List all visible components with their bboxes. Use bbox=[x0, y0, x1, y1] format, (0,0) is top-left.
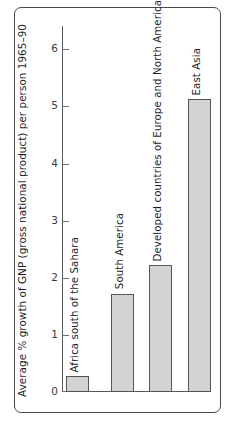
y-tick-label-3: 3 bbox=[44, 215, 58, 226]
bar-3 bbox=[188, 99, 211, 392]
bar-label-2: Developed countries of Europe and North … bbox=[153, 0, 163, 261]
y-tick-label-4: 4 bbox=[44, 158, 58, 169]
y-tick-mark-3 bbox=[62, 221, 69, 222]
bar-label-0: Africa south of the Sahara bbox=[70, 237, 80, 372]
bar-1 bbox=[111, 294, 134, 392]
y-tick-label-0: 0 bbox=[44, 386, 58, 397]
y-axis-title: Average % growth of GNP (gross national … bbox=[17, 24, 27, 397]
y-tick-mark-6 bbox=[62, 49, 69, 50]
y-tick-mark-2 bbox=[62, 278, 69, 279]
y-tick-mark-4 bbox=[62, 164, 69, 165]
bar-label-3: East Asia bbox=[192, 48, 202, 95]
y-tick-mark-5 bbox=[62, 106, 69, 107]
y-tick-label-5: 5 bbox=[44, 100, 58, 111]
y-axis-line bbox=[62, 26, 63, 392]
y-tick-label-1: 1 bbox=[44, 329, 58, 340]
bar-2 bbox=[149, 265, 172, 392]
y-tick-mark-1 bbox=[62, 335, 69, 336]
bar-0 bbox=[66, 376, 89, 392]
y-tick-label-6: 6 bbox=[44, 43, 58, 54]
y-tick-label-2: 2 bbox=[44, 272, 58, 283]
chart-figure: 6 5 4 3 2 1 0 Average % growth of GNP (g… bbox=[0, 0, 236, 429]
bar-label-1: South America bbox=[115, 213, 125, 289]
